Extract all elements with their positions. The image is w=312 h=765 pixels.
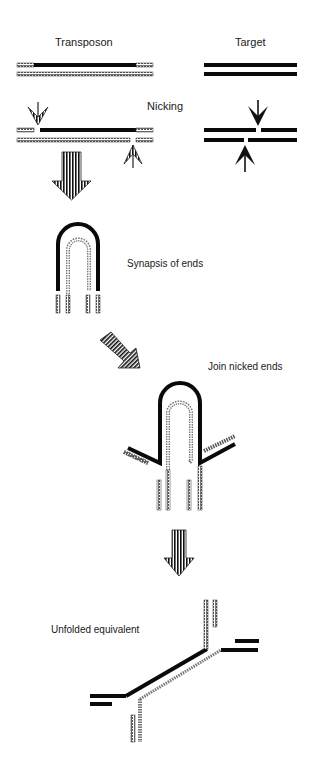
transposon-top-left-end xyxy=(17,63,34,67)
unfolded-structure xyxy=(90,600,259,742)
transposon-bottom-strand xyxy=(17,72,153,76)
target-nicked-top-right xyxy=(261,128,297,132)
nick-arrow-down-icon xyxy=(28,102,48,125)
nick-arrow-up-icon xyxy=(124,145,142,168)
nicked-transposon xyxy=(17,128,153,142)
nicked-top-right-end xyxy=(136,128,153,132)
target-bottom-strand xyxy=(204,72,297,76)
label-target: Target xyxy=(235,36,266,48)
target-nick-arrow-down-icon xyxy=(248,100,268,126)
transposon-duplex xyxy=(17,63,153,76)
step-arrow-down-icon xyxy=(52,152,91,200)
synapsis-hairpin xyxy=(56,224,100,313)
target-nicked-bottom-left xyxy=(204,138,244,142)
label-transposon: Transposon xyxy=(55,36,113,48)
target-nicked-bottom-right xyxy=(248,138,297,142)
target-nicked-top-left xyxy=(204,128,256,132)
label-join: Join nicked ends xyxy=(208,361,283,372)
transposition-diagram xyxy=(0,0,312,765)
nicked-target xyxy=(204,128,297,142)
label-nicking: Nicking xyxy=(147,100,183,112)
target-top-strand xyxy=(204,63,297,67)
joined-hairpin xyxy=(124,383,235,510)
target-duplex xyxy=(204,63,297,76)
transposon-top-strand xyxy=(34,63,136,67)
label-unfolded: Unfolded equivalent xyxy=(51,624,139,635)
nicked-bottom-right-end xyxy=(136,138,153,142)
target-nick-arrow-up-icon xyxy=(235,145,255,172)
nicked-bottom-strand xyxy=(17,138,130,142)
nicked-top-left-end xyxy=(17,128,34,132)
step-arrow-diagonal-icon xyxy=(100,332,140,368)
step-arrow-down-2-icon xyxy=(164,530,194,576)
nicked-top-strand xyxy=(40,128,136,132)
label-synapsis: Synapsis of ends xyxy=(127,258,203,269)
transposon-top-right-end xyxy=(136,63,153,67)
